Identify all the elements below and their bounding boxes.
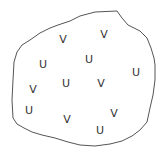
region-label-v: V — [97, 78, 105, 89]
region-label-v: V — [110, 108, 118, 119]
region-label-v: V — [29, 84, 37, 95]
region-label-u: U — [25, 105, 33, 116]
region-label-v: V — [100, 29, 108, 40]
region-label-u: U — [96, 125, 104, 136]
region-outline — [12, 11, 155, 146]
region-label-v: V — [59, 34, 67, 45]
region-label-u: U — [39, 59, 47, 70]
region-diagram — [0, 0, 167, 151]
region-label-u: U — [62, 78, 70, 89]
region-label-u: U — [85, 54, 93, 65]
region-label-u: U — [132, 67, 140, 78]
region-label-v: V — [63, 114, 71, 125]
